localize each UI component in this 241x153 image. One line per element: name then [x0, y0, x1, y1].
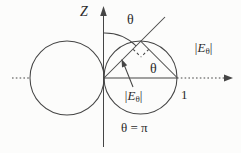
e-theta-pointer-arrowhead — [122, 59, 128, 68]
radiation-pattern-diagram: Z θ |Eθ| θ |Eθ| 1 θ = π — [0, 0, 241, 153]
e-theta-inner-post: | — [140, 88, 143, 103]
left-lobe-circle — [30, 41, 104, 115]
theta-chord-label: θ — [150, 62, 157, 76]
z-axis-arrowhead — [100, 6, 107, 16]
theta-top-label: θ — [127, 13, 134, 27]
e-theta-inner-pre: |E — [124, 88, 136, 103]
z-axis-label: Z — [80, 5, 88, 19]
e-theta-pointer-line — [124, 65, 133, 88]
unit-radius-label: 1 — [181, 88, 188, 101]
theta-angle-arc — [104, 33, 137, 46]
right-angle-mark — [133, 49, 149, 57]
chord-line — [141, 42, 177, 78]
horizontal-axis-arrowhead — [224, 75, 233, 82]
e-theta-outer-pre: |E — [194, 40, 206, 55]
e-theta-inner-label: |Eθ| — [124, 89, 142, 104]
e-theta-outer-post: | — [210, 40, 213, 55]
theta-pi-label: θ = π — [121, 121, 148, 134]
e-theta-outer-label: |Eθ| — [194, 41, 212, 56]
